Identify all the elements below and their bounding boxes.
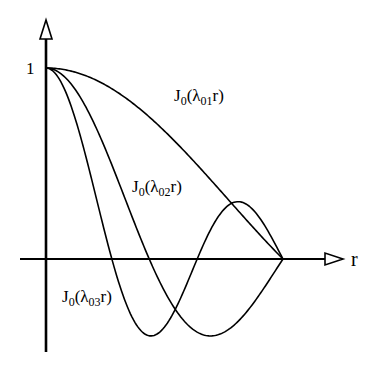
label-j0-lambda03: J0(λ03r) (62, 287, 112, 309)
curve-j0-lambda01 (46, 68, 283, 259)
label-j0-lambda02: J0(λ02r) (132, 177, 182, 199)
label-j0-lambda01: J0(λ01r) (174, 86, 224, 108)
bessel-function-diagram: r 1 J0(λ01r) J0(λ02r) J0(λ03r) (0, 0, 384, 374)
r-axis-label: r (351, 248, 358, 270)
r-axis-arrowhead-icon (325, 253, 343, 265)
y-tick-label-one: 1 (26, 59, 35, 78)
y-axis-arrowhead-icon (40, 20, 52, 39)
